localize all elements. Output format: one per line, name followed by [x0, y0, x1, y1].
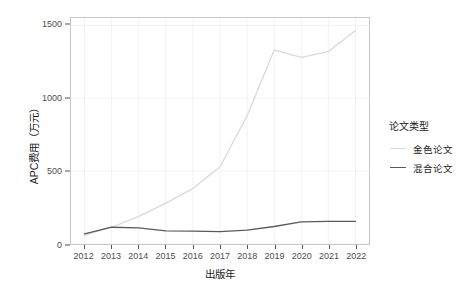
y-axis-tick-mark [65, 24, 70, 25]
x-axis-tick-mark [329, 245, 330, 249]
x-axis-tick-label: 2022 [336, 251, 376, 261]
y-axis-tick-label: 0 [22, 240, 62, 250]
legend-line-swatch-icon [389, 142, 407, 156]
y-axis-tick-mark [65, 171, 70, 172]
x-axis-tick-mark [247, 245, 248, 249]
x-axis-tick-mark [220, 245, 221, 249]
x-axis-tick-mark [138, 245, 139, 249]
x-axis-tick-mark [84, 245, 85, 249]
x-axis-tick-mark [302, 245, 303, 249]
x-axis-tick-mark [356, 245, 357, 249]
legend: 论文类型 金色论文混合论文 [389, 118, 464, 178]
plot-svg [71, 18, 369, 244]
y-axis-tick-label: 500 [22, 166, 62, 176]
y-axis-tick-labels: 050010001500 [18, 0, 62, 287]
x-axis-tick-mark [275, 245, 276, 249]
x-axis-tick-mark [111, 245, 112, 249]
y-axis-tick-label: 1000 [22, 93, 62, 103]
legend-item-label: 金色论文 [413, 142, 453, 156]
y-axis-tick-mark [65, 97, 70, 98]
chart-container: APC费用（万元） 050010001500 20122013201420152… [0, 0, 466, 287]
legend-item[interactable]: 金色论文 [389, 140, 464, 157]
legend-line-swatch-icon [389, 161, 407, 175]
x-axis-tick-mark [165, 245, 166, 249]
legend-items: 金色论文混合论文 [389, 140, 464, 176]
x-axis-tick-mark [193, 245, 194, 249]
legend-item[interactable]: 混合论文 [389, 159, 464, 176]
plot-panel [70, 17, 370, 245]
legend-item-label: 混合论文 [413, 161, 453, 175]
x-axis-title: 出版年 [70, 266, 370, 281]
legend-title: 论文类型 [389, 118, 464, 133]
y-axis-tick-mark [65, 245, 70, 246]
x-axis-tick-labels: 2012201320142015201620172018201920202021… [0, 251, 466, 265]
y-axis-tick-label: 1500 [22, 19, 62, 29]
